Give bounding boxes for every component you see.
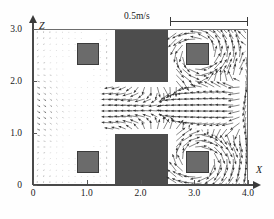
velocity-vector	[69, 129, 70, 130]
velocity-vector-head	[240, 162, 242, 165]
velocity-vector	[50, 129, 52, 130]
velocity-vector-head	[165, 110, 168, 112]
velocity-vector-head	[209, 97, 212, 99]
velocity-vector	[43, 135, 45, 136]
velocity-vector-head	[224, 70, 226, 73]
velocity-vector-head	[230, 174, 232, 177]
x-tick-label: 1.0	[81, 188, 93, 198]
velocity-vector	[62, 135, 63, 136]
velocity-vector-head	[177, 98, 180, 100]
velocity-vector-head	[196, 116, 199, 118]
x-axis-label: X	[256, 164, 262, 175]
velocity-vector-head	[190, 110, 193, 112]
velocity-vector-head	[197, 30, 200, 31]
velocity-vector-head	[229, 64, 231, 67]
velocity-vector-head	[214, 168, 216, 171]
velocity-vector-head	[114, 104, 117, 106]
velocity-vector	[62, 123, 63, 124]
x-tick-label: 3.0	[188, 188, 200, 198]
x-axis-line	[33, 184, 255, 186]
velocity-vector-head	[177, 93, 180, 95]
velocity-vector	[56, 81, 57, 82]
z-tick-label: 0	[17, 180, 22, 190]
velocity-vector	[50, 56, 51, 57]
velocity-vector	[87, 123, 88, 124]
velocity-vector-head	[102, 110, 105, 112]
velocity-vector-head	[172, 154, 174, 157]
velocity-vector-head	[190, 116, 193, 118]
velocity-vector-head	[222, 110, 225, 112]
velocity-vector-head	[108, 110, 111, 112]
velocity-vector-field-figure: Z X 01.02.03.04.001.02.03.0 0.5m/s	[0, 0, 274, 219]
velocity-vector-head	[246, 84, 248, 87]
velocity-vector	[62, 99, 63, 100]
scale-bar-label: 0.5m/s	[124, 11, 150, 21]
velocity-vector-head	[184, 98, 187, 100]
velocity-vector	[50, 123, 52, 124]
velocity-vector	[62, 129, 63, 130]
velocity-vector-head	[243, 126, 245, 129]
scale-bar-cap-left	[170, 17, 171, 26]
z-tick-label: 3.0	[10, 24, 22, 34]
velocity-vector-head	[221, 46, 223, 49]
velocity-vector	[69, 123, 70, 124]
velocity-vector-head	[126, 125, 129, 127]
velocity-vector-head	[135, 114, 138, 116]
velocity-vector	[43, 50, 44, 51]
z-tick-label: 1.0	[10, 128, 22, 138]
velocity-vector	[62, 158, 63, 159]
velocity-vector-head	[203, 116, 206, 118]
velocity-vector-head	[219, 70, 221, 73]
velocity-vector-head	[190, 98, 193, 100]
velocity-vector-head	[225, 154, 227, 157]
velocity-vector	[56, 111, 58, 113]
velocity-vector-head	[221, 30, 223, 32]
velocity-vector-head	[184, 116, 187, 118]
velocity-vector-head	[171, 115, 174, 117]
velocity-vector	[56, 164, 57, 165]
velocity-vector	[43, 170, 44, 172]
velocity-vector-head	[215, 46, 217, 49]
velocity-vector	[62, 93, 63, 94]
velocity-vector-head	[215, 97, 218, 99]
velocity-vector	[62, 87, 63, 88]
velocity-vector-head	[149, 109, 152, 111]
x-tick-label: 0	[31, 188, 36, 198]
velocity-vector-head	[209, 110, 212, 112]
velocity-vector-head	[207, 132, 209, 134]
velocity-vector-head	[38, 81, 39, 82]
velocity-vector-head	[203, 124, 206, 126]
velocity-vector	[69, 87, 70, 88]
x-tick-label: 2.0	[135, 188, 147, 198]
x-tick	[87, 180, 88, 184]
velocity-vector	[50, 164, 51, 165]
velocity-vector-head	[241, 41, 244, 43]
velocity-vector	[50, 135, 52, 136]
velocity-vector	[50, 50, 51, 51]
velocity-vector-head	[220, 168, 222, 171]
velocity-vector-head	[203, 110, 206, 112]
velocity-vector-head	[102, 104, 105, 106]
velocity-vector	[195, 128, 196, 129]
velocity-vector	[94, 105, 95, 106]
velocity-vector	[56, 87, 57, 88]
velocity-vector-head	[127, 104, 130, 106]
velocity-vector-head	[196, 97, 199, 99]
velocity-vector-head	[143, 114, 146, 116]
velocity-vector-head	[222, 116, 225, 118]
velocity-vector-head	[204, 139, 207, 141]
velocity-vector	[56, 129, 57, 130]
velocity-vector	[37, 164, 38, 165]
z-tick	[33, 185, 37, 186]
velocity-vector-head	[189, 128, 192, 130]
velocity-vector	[56, 105, 58, 107]
velocity-vector	[37, 43, 38, 45]
velocity-vector-head	[200, 81, 203, 83]
velocity-vector-head	[184, 110, 187, 112]
velocity-vector-head	[228, 106, 231, 108]
velocity-vector-head	[190, 178, 193, 180]
z-tick	[33, 29, 37, 30]
x-tick	[33, 180, 34, 184]
velocity-vector	[62, 105, 63, 106]
velocity-vector-head	[171, 110, 174, 112]
